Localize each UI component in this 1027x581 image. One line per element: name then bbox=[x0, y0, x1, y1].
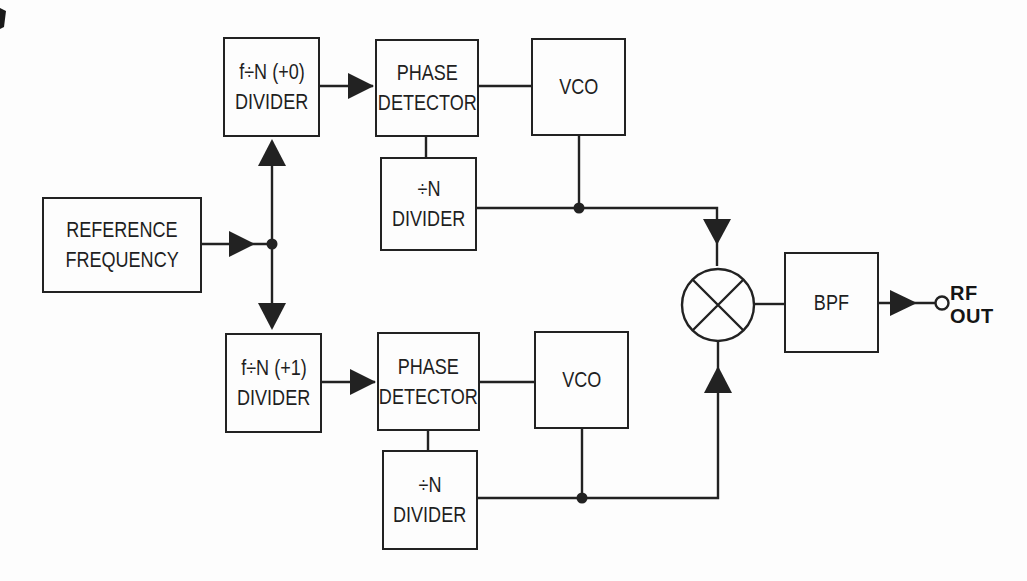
rf-out-line: RF bbox=[950, 282, 994, 305]
junction-dot-vco-bottom-tap bbox=[577, 493, 588, 504]
output-terminal-icon bbox=[936, 297, 949, 310]
block-n-divider-bottom: ÷N DIVIDER bbox=[382, 450, 478, 550]
block-label-line: REFERENCE bbox=[66, 215, 177, 245]
block-label-line: VCO bbox=[559, 72, 598, 102]
block-bpf: BPF bbox=[784, 252, 879, 353]
diagram-canvas: REFERENCE FREQUENCY f÷N (+0) DIVIDER PHA… bbox=[0, 0, 1027, 581]
block-phase-detector-top: PHASE DETECTOR bbox=[375, 39, 479, 137]
arrowhead-into-mixer-bottom-icon bbox=[704, 366, 732, 393]
mixer-icon bbox=[682, 269, 754, 341]
block-divider-plus1: f÷N (+1) DIVIDER bbox=[225, 333, 322, 433]
block-label-line: VCO bbox=[562, 365, 601, 395]
junction-dot-reference-split bbox=[267, 239, 278, 250]
block-vco-top: VCO bbox=[531, 38, 626, 136]
block-label-line: DIVIDER bbox=[235, 87, 308, 117]
block-vco-bottom: VCO bbox=[534, 331, 629, 429]
block-label-line: BPF bbox=[814, 288, 849, 318]
block-label-line: ÷N bbox=[417, 174, 440, 204]
block-divider-plus0: f÷N (+0) DIVIDER bbox=[223, 37, 320, 137]
block-reference-frequency: REFERENCE FREQUENCY bbox=[42, 197, 202, 293]
block-label-line: f÷N (+1) bbox=[241, 353, 307, 383]
block-label-line: PHASE bbox=[396, 58, 457, 88]
block-label-line: DETECTOR bbox=[378, 88, 477, 118]
block-label-line: DETECTOR bbox=[379, 382, 478, 412]
block-label-line: FREQUENCY bbox=[65, 245, 178, 275]
arrowhead-into-divider0-icon bbox=[258, 139, 286, 166]
block-label-line: DIVIDER bbox=[393, 500, 466, 530]
block-label-line: ÷N bbox=[419, 470, 442, 500]
arrowhead-into-phase-detector-bottom-icon bbox=[350, 369, 376, 395]
arrowhead-rf-out-icon bbox=[890, 290, 917, 316]
arrowhead-reference-out-icon bbox=[229, 231, 255, 257]
rf-out-label: RF OUT bbox=[950, 282, 994, 328]
arrowhead-into-divider1-icon bbox=[258, 303, 286, 330]
junction-dot-vco-top-tap bbox=[574, 203, 585, 214]
rf-out-line: OUT bbox=[950, 305, 994, 328]
block-label-line: f÷N (+0) bbox=[239, 57, 305, 87]
scan-artifact bbox=[0, 8, 6, 29]
block-label-line: DIVIDER bbox=[237, 383, 310, 413]
arrowhead-into-phase-detector-top-icon bbox=[348, 73, 374, 99]
wire-n-divider-to-mixer-top bbox=[476, 208, 717, 266]
block-phase-detector-bottom: PHASE DETECTOR bbox=[377, 332, 480, 431]
arrowhead-into-mixer-top-icon bbox=[703, 219, 731, 245]
block-label-line: DIVIDER bbox=[392, 204, 465, 234]
block-label-line: PHASE bbox=[398, 352, 459, 382]
block-n-divider-top: ÷N DIVIDER bbox=[380, 157, 477, 251]
